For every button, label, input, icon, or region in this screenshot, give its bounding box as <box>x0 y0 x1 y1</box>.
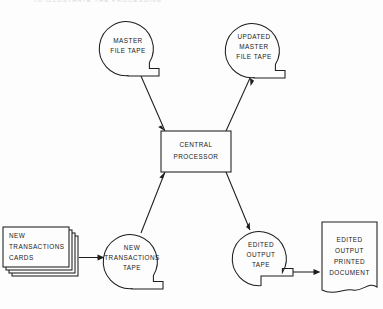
node-label-line: CENTRAL <box>180 141 213 148</box>
node-updated-master-file-tape[interactable]: UPDATED MASTER FILE TAPE <box>225 24 285 78</box>
node-label-line: EDITED <box>248 241 274 248</box>
flowchart-canvas: TO ILLUSTRATE THE PROCESSING <box>0 0 383 309</box>
edge-master-to-processor <box>141 76 165 131</box>
node-master-file-tape[interactable]: MASTER FILE TAPE <box>99 22 159 76</box>
node-new-transactions-tape[interactable]: NEW TRANSACTIONS TAPE <box>103 235 163 289</box>
node-label-line: UPDATED <box>237 33 270 40</box>
node-edited-output-tape[interactable]: EDITED OUTPUT TAPE <box>232 232 293 286</box>
node-label-line: MASTER <box>239 43 268 50</box>
node-new-transactions-cards[interactable]: NEW TRANSACTIONS CARDS <box>3 227 78 276</box>
node-label-line: PRINTED <box>334 258 365 265</box>
node-label-line: TAPE <box>123 264 141 271</box>
node-label-line: CARDS <box>9 254 34 261</box>
edge-edited-output-tape-to-document <box>293 269 321 275</box>
edge-processor-to-edited-output-tape <box>226 172 250 230</box>
node-label-line: NEW <box>9 232 26 239</box>
node-central-processor[interactable]: CENTRAL PROCESSOR <box>161 131 231 172</box>
node-label-line: EDITED <box>336 236 362 243</box>
node-label-line: TRANSACTIONS <box>9 243 64 250</box>
edge-processor-to-updated-master <box>226 78 254 131</box>
node-label-line: DOCUMENT <box>329 269 370 276</box>
node-label-line: OUTPUT <box>335 247 364 254</box>
node-label-line: PROCESSOR <box>174 153 219 160</box>
node-label-line: FILE TAPE <box>110 47 145 54</box>
edge-cards-to-new-transactions-tape <box>79 255 105 261</box>
node-label-line: OUTPUT <box>247 251 276 258</box>
node-label-line: FILE TAPE <box>236 53 271 60</box>
node-label-line: TRANSACTIONS <box>104 254 159 261</box>
node-label-line: MASTER <box>113 37 142 44</box>
node-label-line: NEW <box>124 244 141 251</box>
node-label-line: TAPE <box>252 261 270 268</box>
flowchart-diagram: MASTER FILE TAPE UPDATED MASTER FILE TAP… <box>0 0 383 309</box>
node-edited-output-printed-document[interactable]: EDITED OUTPUT PRINTED DOCUMENT <box>322 222 377 292</box>
edge-new-transactions-tape-to-processor <box>141 172 165 233</box>
